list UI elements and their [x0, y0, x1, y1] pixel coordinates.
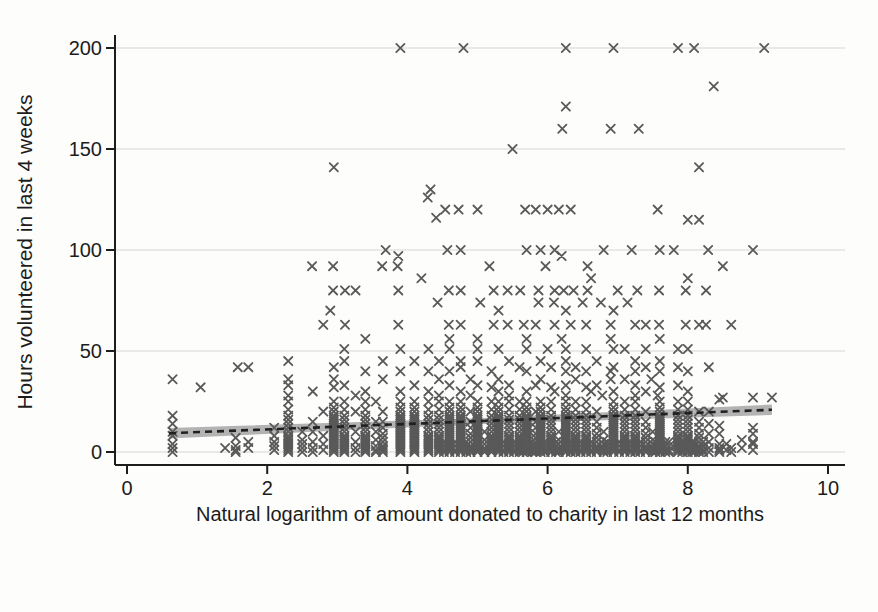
scatter-point — [684, 345, 692, 353]
scatter-point — [361, 397, 369, 405]
scatter-point — [221, 444, 229, 452]
scatter-point — [536, 397, 544, 405]
scatter-point — [490, 321, 498, 329]
scatter-point — [727, 321, 735, 329]
scatter-point — [562, 102, 570, 110]
scatter-point — [457, 286, 465, 294]
scatter-point — [473, 357, 481, 365]
scatter-point — [547, 363, 555, 371]
scatter-point — [656, 335, 664, 343]
scatter-point — [378, 262, 386, 270]
scatter-point — [197, 383, 205, 391]
scatter-point — [505, 381, 513, 389]
scatter-point — [562, 397, 570, 405]
x-tick-label: 6 — [526, 478, 570, 498]
scatter-point — [329, 286, 337, 294]
scatter-point — [424, 367, 432, 375]
x-tick-label: 2 — [245, 478, 289, 498]
scatter-point — [457, 397, 465, 405]
scatter-point — [642, 363, 650, 371]
y-tick-label: 50 — [38, 341, 102, 361]
scatter-point — [445, 321, 453, 329]
scatter-point — [426, 185, 434, 193]
scatter-point — [642, 345, 650, 353]
scatter-point — [168, 420, 176, 428]
scatter-point — [504, 321, 512, 329]
scatter-point — [284, 397, 292, 405]
scatter-point — [319, 321, 327, 329]
scatter-point — [609, 387, 617, 395]
scatter-point — [534, 298, 542, 306]
scatter-point — [593, 357, 601, 365]
scatter-point — [702, 286, 710, 294]
legend: Fitted values 95% CI — [0, 556, 878, 590]
scatter-point — [521, 206, 529, 214]
scatter-point — [536, 357, 544, 365]
scatter-point — [555, 206, 563, 214]
scatter-point — [705, 430, 713, 438]
scatter-point — [284, 405, 292, 413]
y-tick-label: 200 — [38, 38, 102, 58]
scatter-point — [494, 397, 502, 405]
scatter-point — [340, 381, 348, 389]
scatter-point — [505, 397, 513, 405]
scatter-point — [684, 216, 692, 224]
scatter-point — [441, 206, 449, 214]
scatter-point — [655, 321, 663, 329]
scatter-point — [445, 397, 453, 405]
scatter-point — [505, 405, 513, 413]
scatter-point — [379, 357, 387, 365]
scatter-point — [710, 82, 718, 90]
scatter-point — [410, 397, 418, 405]
scatter-point — [607, 321, 615, 329]
scatter-point — [244, 438, 252, 446]
scatter-point — [454, 206, 462, 214]
scatter-point — [340, 357, 348, 365]
scatter-point — [361, 405, 369, 413]
scatter-point — [396, 397, 404, 405]
scatter-point — [541, 262, 549, 270]
scatter-point — [684, 387, 692, 395]
scatter-point — [494, 375, 502, 383]
scatter-point — [361, 387, 369, 395]
scatter-point — [749, 424, 757, 432]
scatter-point — [607, 375, 615, 383]
scatter-point — [351, 391, 359, 399]
scatter-point — [768, 393, 776, 401]
scatter-point — [351, 408, 359, 416]
scatter-point — [558, 252, 566, 260]
scatter-point — [473, 206, 481, 214]
scatter-point — [684, 367, 692, 375]
scatter-point — [487, 367, 495, 375]
scatter-point — [719, 262, 727, 270]
scatter-point — [330, 383, 338, 391]
scatter-point — [558, 125, 566, 133]
scatter-point — [520, 321, 528, 329]
scatter-point — [562, 345, 570, 353]
scatter-point — [473, 335, 481, 343]
scatter-point — [674, 363, 682, 371]
scatter-point — [623, 298, 631, 306]
scatter-point — [410, 357, 418, 365]
scatter-point — [417, 274, 425, 282]
scatter-point — [631, 321, 639, 329]
scatter-point — [433, 298, 441, 306]
scatter-point — [562, 367, 570, 375]
scatter-point — [695, 216, 703, 224]
scatter-point — [532, 381, 540, 389]
scatter-point — [435, 397, 443, 405]
scatter-point — [326, 307, 334, 315]
scatter-point — [534, 286, 542, 294]
scatter-point — [656, 357, 664, 365]
scatter-point — [410, 381, 418, 389]
scatter-point — [684, 274, 692, 282]
scatter-point — [631, 367, 639, 375]
scatter-point — [705, 420, 713, 428]
scatter-point — [445, 381, 453, 389]
scatter-point — [583, 286, 591, 294]
x-axis-title: Natural logarithm of amount donated to c… — [115, 503, 845, 526]
y-tick-label: 0 — [38, 442, 102, 462]
scatter-point — [522, 335, 530, 343]
scatter-point — [684, 397, 692, 405]
scatter-point — [631, 397, 639, 405]
